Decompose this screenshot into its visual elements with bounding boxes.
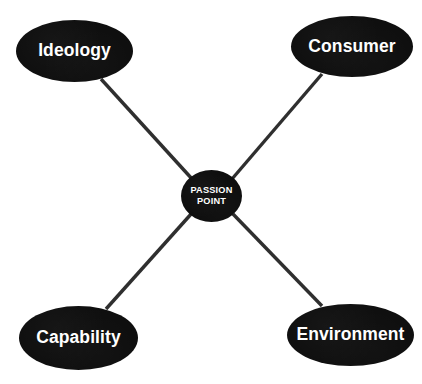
node-passion-point-label: PASSION POINT — [190, 185, 232, 207]
node-passion-point-label-line2: POINT — [190, 196, 232, 207]
node-consumer-label: Consumer — [308, 38, 395, 56]
node-environment: Environment — [287, 304, 414, 366]
node-capability: Capability — [19, 306, 138, 370]
connector-environment-to-center — [233, 214, 322, 306]
node-ideology-label: Ideology — [38, 42, 111, 60]
node-consumer: Consumer — [291, 16, 413, 77]
connector-consumer-to-center — [232, 74, 322, 179]
node-capability-label: Capability — [36, 329, 121, 347]
node-passion-point: PASSION POINT — [181, 170, 242, 222]
node-environment-label: Environment — [296, 326, 404, 344]
connector-ideology-to-center — [101, 79, 193, 180]
passion-point-diagram: Ideology Consumer Capability Environment… — [0, 0, 422, 384]
connector-capability-to-center — [106, 213, 192, 309]
node-ideology: Ideology — [16, 20, 133, 82]
node-passion-point-label-line1: PASSION — [190, 185, 232, 195]
